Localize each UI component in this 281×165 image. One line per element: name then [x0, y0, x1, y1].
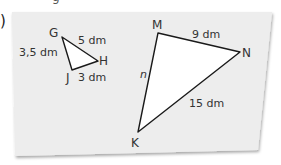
triangles-figure: G H J 5 dm 3,5 dm 3 dm M N K 9 dm n 15 d…	[0, 0, 281, 165]
vertex-label-m: M	[152, 18, 162, 32]
side-label-mk: n	[140, 68, 147, 81]
vertex-label-k: K	[131, 136, 140, 150]
side-label-jh: 3 dm	[78, 71, 106, 84]
side-label-mn: 9 dm	[192, 28, 220, 41]
vertex-label-n: N	[242, 46, 251, 60]
vertex-label-g: G	[49, 26, 58, 40]
vertex-label-h: H	[99, 54, 108, 68]
side-label-nk: 15 dm	[189, 97, 224, 110]
side-label-gj: 3,5 dm	[19, 46, 58, 59]
side-label-gh: 5 dm	[78, 34, 106, 47]
vertex-label-j: J	[65, 71, 70, 85]
